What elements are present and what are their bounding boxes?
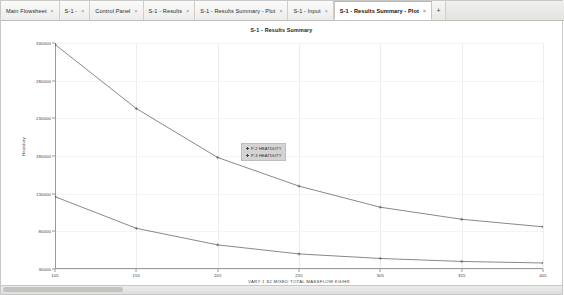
tab-s1-input[interactable]: S-1 - Input × <box>288 1 333 20</box>
y-tick-label: 130000 <box>36 191 55 196</box>
tab-label: S-1 - Results <box>149 8 183 14</box>
series-line <box>55 45 543 227</box>
data-point-marker <box>297 185 300 188</box>
tab-s1[interactable]: S-1 - × <box>60 1 91 20</box>
legend-label: P-3 HEATDUTY <box>251 153 281 158</box>
close-icon[interactable]: × <box>325 8 328 14</box>
y-tick-label: 30000 <box>39 267 55 272</box>
tab-label: S-1 - Input <box>293 8 320 14</box>
tab-active-results-summary-plot[interactable]: S-1 - Results Summary - Plot × <box>334 1 432 20</box>
y-tick-label: 330000 <box>36 41 55 46</box>
chart-legend[interactable]: P-2 HEATDUTY P-3 HEATDUTY <box>241 143 286 161</box>
data-point-marker <box>135 227 138 230</box>
x-tick-label: 405 <box>539 269 546 278</box>
close-icon[interactable]: × <box>423 8 426 14</box>
tab-main-flowsheet[interactable]: Main Flowsheet × <box>1 1 60 20</box>
tab-s1-results-summary-plot[interactable]: S-1 - Results Summary - Plot × <box>195 1 288 20</box>
legend-item[interactable]: P-2 HEATDUTY <box>246 146 281 151</box>
legend-item[interactable]: P-3 HEATDUTY <box>246 153 281 158</box>
close-icon[interactable]: × <box>279 8 282 14</box>
tab-label: S-1 - <box>65 8 78 14</box>
data-point-marker <box>379 206 382 209</box>
data-point-marker <box>541 225 543 228</box>
status-bar <box>1 285 562 294</box>
plot-canvas: 1051552052553053554053300002800002300001… <box>55 43 543 269</box>
legend-marker-icon <box>246 147 249 150</box>
data-point-marker <box>297 252 300 255</box>
chart-title: S-1 - Results Summary <box>1 27 562 33</box>
x-axis-label: VARY 1 S2 MIXED TOTAL MASSFLOW KG/HR <box>55 279 543 284</box>
new-tab-button[interactable]: + <box>432 1 446 20</box>
tab-label: S-1 - Results Summary - Plot <box>340 8 419 14</box>
series-lines <box>55 43 543 269</box>
x-tick-label: 155 <box>133 269 140 278</box>
horizontal-scrollbar-thumb[interactable] <box>3 287 123 292</box>
x-tick-label: 255 <box>295 269 302 278</box>
y-tick-label: 230000 <box>36 116 55 121</box>
y-tick-label: 280000 <box>36 78 55 83</box>
tab-label: Control Panel <box>95 8 130 14</box>
x-tick-label: 305 <box>377 269 384 278</box>
data-point-marker <box>460 260 463 263</box>
data-point-marker <box>216 156 219 159</box>
data-point-marker <box>460 218 463 221</box>
y-axis-label: Heatduty <box>21 137 26 156</box>
close-icon[interactable]: × <box>81 8 84 14</box>
y-tick-label: 180000 <box>36 154 55 159</box>
data-point-marker <box>55 195 57 198</box>
legend-marker-icon <box>246 154 249 157</box>
tab-s1-results[interactable]: S-1 - Results × <box>144 1 196 20</box>
close-icon[interactable]: × <box>186 8 189 14</box>
legend-label: P-2 HEATDUTY <box>251 146 281 151</box>
x-tick-label: 355 <box>458 269 465 278</box>
tab-label: S-1 - Results Summary - Plot <box>200 8 275 14</box>
tab-strip-filler <box>446 1 564 20</box>
close-icon[interactable]: × <box>134 8 137 14</box>
tab-label: Main Flowsheet <box>6 8 47 14</box>
x-tick-label: 205 <box>214 269 221 278</box>
close-icon[interactable]: × <box>51 8 54 14</box>
data-point-marker <box>379 257 382 260</box>
y-tick-label: 80000 <box>39 229 55 234</box>
data-point-marker <box>541 261 543 264</box>
plot-area: S-1 - Results Summary Heatduty VARY 1 S2… <box>1 21 562 294</box>
gridline-vertical <box>543 43 544 269</box>
data-point-marker <box>216 243 219 246</box>
tab-strip[interactable]: Main Flowsheet × S-1 - × Control Panel ×… <box>1 1 564 21</box>
tab-control-panel[interactable]: Control Panel × <box>90 1 143 20</box>
